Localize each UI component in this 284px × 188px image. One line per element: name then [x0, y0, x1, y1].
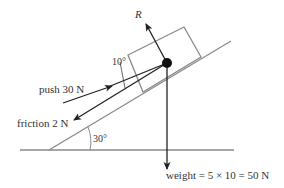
particle-dot [162, 58, 172, 68]
push-angle-label: 10° [112, 57, 126, 67]
weight-label: weight = 5 × 10 = 50 N [166, 170, 269, 181]
friction-label: friction 2 N [17, 118, 68, 129]
incline-angle-label: 30° [93, 134, 107, 144]
normal-reaction-arrow [146, 24, 167, 63]
friction-arrow [74, 63, 167, 120]
incline-line [49, 41, 231, 150]
incline-angle-arc [88, 127, 91, 150]
normal-reaction-label: R [135, 9, 142, 20]
push-label: push 30 N [39, 84, 84, 95]
